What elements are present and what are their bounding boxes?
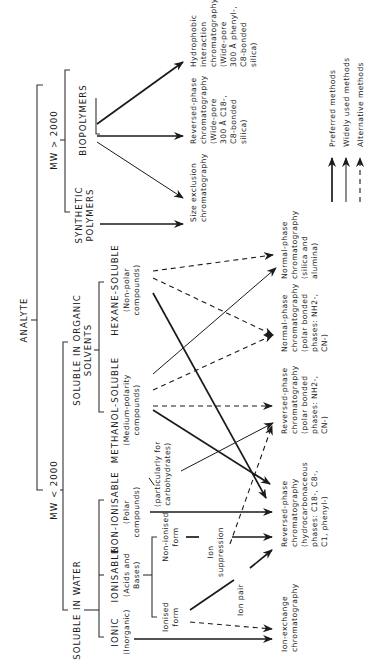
hplc-method-selection-diagram: ANALYTE MW > 2000 MW < 2000 BIOPOLYMERS …: [0, 0, 375, 672]
method-rp-hydro-line: chromatography: [290, 478, 299, 547]
method-np-bonded-line: CN-): [320, 334, 329, 352]
method-np-bonded-line: Normal-phase: [280, 294, 289, 352]
method-hic-line: 300 Å phenyl-,: [228, 6, 238, 67]
method-sec-line: Size exclusion: [189, 163, 198, 222]
ionised-form-1: Ionised: [161, 602, 170, 632]
ionised-form-2: form: [171, 607, 180, 626]
methanol-soluble-label: METHANOL-SOLUBLE: [110, 357, 120, 463]
method-rp-hydro-line: C1, phenyl-): [320, 496, 329, 547]
ion-suppression-1: Ion: [206, 546, 215, 559]
synthetic-polymers-label-1: SYNTHETIC: [74, 186, 84, 243]
biopolymers-bracket: [96, 98, 100, 134]
mw-low-label: MW < 2000: [49, 460, 59, 519]
method-iex-line: Ion-exchange: [280, 596, 289, 652]
arrow-methanol-to-np-bonded: [153, 335, 273, 390]
water-bracket: [99, 500, 104, 637]
synthetic-polymers-label-2: POLYMERS: [85, 188, 95, 241]
mw-low-bracket: [63, 342, 68, 610]
method-rp-polar-line: phases: NH2-,: [310, 376, 319, 434]
arrow-carbohydrates-to-rp-polar: [181, 423, 273, 471]
method-rp-polar-line: CN-): [320, 416, 329, 434]
method-hic-line: (Wide-pore: [219, 21, 228, 67]
method-rp-widepore-line: Reversed-phase: [189, 77, 198, 144]
ionisable-label: IONISABLE: [110, 548, 120, 603]
hexane-desc-1: (Non-polar: [122, 267, 131, 312]
methanol-desc-2: compounds): [132, 384, 141, 435]
ionisable-desc-2: Bases): [132, 561, 141, 589]
method-hic-line: Hydrophobic: [189, 15, 198, 67]
arrow-methanol-to-np-silica: [153, 268, 276, 374]
method-rp-widepore-line: (Wide-pore: [209, 98, 218, 144]
method-rp-widepore-line: C8-bonded: [229, 99, 238, 144]
method-np-bonded-line: chromatography: [290, 283, 299, 352]
method-rp-hydro-line: phases: C18-, C8-,: [310, 470, 319, 547]
arrow-bio-to-hic: [97, 62, 183, 124]
line-ionised-to-ion-pair: [190, 580, 234, 610]
method-rp-widepore-line: silica): [239, 119, 248, 144]
non-ionisable-desc-2: compounds): [132, 486, 141, 537]
arrow-hexane-to-np-silica: [153, 255, 273, 271]
organic-solvents-label-2: SOLVENTS: [83, 324, 93, 377]
method-np-bonded-line: (polar bonded: [300, 293, 309, 352]
method-np-silica-line: alumina): [310, 242, 319, 279]
arrow-ionised-to-iex: [190, 622, 272, 629]
legend-alternative-label: Alternative methods: [356, 62, 365, 147]
method-hic-line: interaction: [199, 22, 208, 67]
methanol-desc-1: (Medium-polarity: [122, 374, 131, 446]
diagram-stage: ANALYTE MW > 2000 MW < 2000 BIOPOLYMERS …: [0, 0, 375, 672]
ionic-label: IONIC: [110, 617, 120, 646]
carbohydrates-note-1: (particularly for: [153, 441, 162, 507]
method-np-silica-line: (silica and: [300, 236, 309, 279]
legend-widely-label: Widely used methods: [342, 57, 351, 147]
ionisable-desc-1: (Acids and: [122, 553, 131, 597]
analyte-label: ANALYTE: [19, 298, 29, 343]
ion-suppression-2: suppression: [216, 527, 225, 577]
carbohydrates-note-2: carbohydrates): [163, 442, 172, 506]
method-np-silica-line: chromatography: [290, 210, 299, 279]
method-rp-polar-line: chromatography: [290, 365, 299, 434]
method-sec-line: chromatography: [199, 153, 208, 222]
method-hic-line: silica): [249, 42, 258, 67]
method-np-silica-line: Normal-phase: [280, 221, 289, 279]
method-hic-line: chromatography: [209, 0, 218, 67]
ion-pair-label: Ion pair: [236, 584, 245, 616]
biopolymers-label: BIOPOLYMERS: [78, 84, 88, 155]
mw-high-label: MW > 2000: [49, 110, 59, 169]
method-iex-line: chromatography: [290, 583, 299, 652]
non-ionisable-label: NON-IONISABLE: [110, 471, 120, 553]
organic-solvents-label-1: SOLUBLE IN ORGANIC: [72, 294, 82, 406]
method-np-bonded-line: phases: NH2-,: [310, 294, 319, 352]
non-ionisable-desc-1: (Polar: [122, 499, 131, 524]
hexane-soluble-label: HEXANE-SOLUBLE: [110, 244, 120, 336]
analyte-bracket: [37, 85, 43, 490]
arrow-bio-to-sec: [97, 142, 183, 198]
method-rp-hydro-line: Reversed-phase: [280, 480, 289, 547]
ionic-desc: (Inorganic): [122, 609, 131, 655]
method-rp-widepore-line: 300 Å C18-,: [218, 95, 228, 144]
method-rp-hydro-line: (hydrocarbonaceous: [300, 462, 309, 547]
method-rp-widepore-line: chromatography: [199, 75, 208, 144]
method-rp-polar-line: (polar bonded: [300, 375, 309, 434]
non-ionised-form-2: form: [171, 527, 180, 546]
hexane-desc-2: compounds): [132, 264, 141, 315]
mw-high-bracket: [65, 70, 70, 212]
organic-bracket: [99, 282, 104, 412]
legend-preferred-label: Preferred methods: [328, 70, 337, 147]
water-soluble-label: SOLUBLE IN WATER: [72, 560, 82, 659]
arrow-ion-pair-to-rp-hydro: [250, 550, 272, 568]
method-rp-polar-line: Reversed-phase: [280, 367, 289, 434]
non-ionised-form-1: Non-ionised: [161, 512, 170, 561]
ionisable-sub-bracket: [152, 537, 157, 617]
method-hic-line: C8-bonded: [239, 22, 248, 67]
